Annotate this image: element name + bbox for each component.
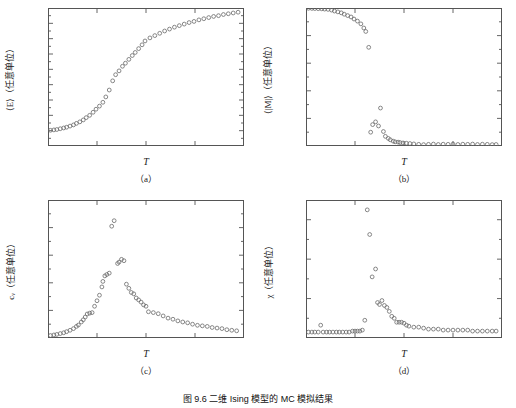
panel-b: ⟨|M|⟩（任意单位） 123450.00.20.40.60.81.0 T （b… [258, 0, 516, 190]
panel-b-plot: 123450.00.20.40.60.81.0 [306, 8, 502, 146]
panel-a-x-axis-title: T [48, 156, 244, 167]
figure-caption: 图 9.6 二维 Ising 模型的 MC 模拟结果 [0, 392, 516, 405]
panel-a-plot: 12345-2.2-2.0-1.8-1.6-1.4-1.2-1.0-0.8-0.… [48, 8, 244, 146]
panel-b-y-axis-title: ⟨|M|⟩（任意单位） [260, 8, 278, 146]
panel-a-label: （a） [48, 172, 244, 185]
panel-d-label: （d） [306, 364, 502, 377]
panel-a-y-axis-title: ⟨E⟩（任意单位） [2, 8, 20, 146]
panel-b-label: （b） [306, 172, 502, 185]
figure-container: ⟨E⟩（任意单位） 12345-2.2-2.0-1.8-1.6-1.4-1.2-… [0, 0, 516, 408]
panel-d-x-axis-title: T [306, 348, 502, 359]
panel-c-label: （c） [48, 364, 244, 377]
panel-c-plot: 123450.0000.0010.0020.0030.0040.005 [48, 200, 244, 338]
panel-c-y-axis-title: cᵥ（任意单位） [2, 200, 20, 338]
panel-c-x-axis-title: T [48, 348, 244, 359]
panel-c: cᵥ（任意单位） 123450.0000.0010.0020.0030.0040… [0, 192, 258, 382]
panel-d-plot: 123450.000.040.080.12 [306, 200, 502, 338]
panel-b-x-axis-title: T [306, 156, 502, 167]
panel-d: χ（任意单位） 123450.000.040.080.12 T （d） [258, 192, 516, 382]
panel-d-y-axis-title: χ（任意单位） [260, 200, 278, 338]
panel-a: ⟨E⟩（任意单位） 12345-2.2-2.0-1.8-1.6-1.4-1.2-… [0, 0, 258, 190]
